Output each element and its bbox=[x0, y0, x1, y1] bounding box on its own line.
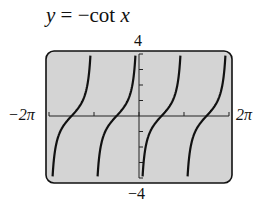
plot bbox=[0, 0, 266, 206]
